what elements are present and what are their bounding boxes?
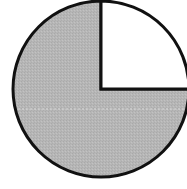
- pie-chart: [0, 0, 187, 189]
- pie-slice-unshaded: [101, 1, 187, 89]
